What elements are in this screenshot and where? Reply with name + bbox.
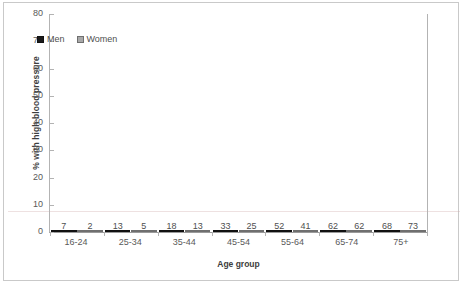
bar-group: 135 bbox=[104, 14, 158, 232]
bar-value-label: 62 bbox=[354, 221, 364, 231]
x-tick-mark bbox=[158, 232, 159, 236]
bar-value-label: 62 bbox=[328, 221, 338, 231]
y-tick-label: 0 bbox=[38, 226, 43, 236]
y-tick-label: 50 bbox=[33, 90, 43, 100]
x-tick-mark bbox=[265, 232, 266, 236]
bar-value-label: 33 bbox=[220, 221, 230, 231]
bar-group: 6262 bbox=[319, 14, 373, 232]
bar-group: 5241 bbox=[265, 14, 319, 232]
bar-group: 3325 bbox=[212, 14, 266, 232]
x-category-label: 55-64 bbox=[266, 237, 320, 247]
x-category-label: 45-54 bbox=[211, 237, 265, 247]
x-category-label: 75+ bbox=[374, 237, 428, 247]
bar-value-label: 13 bbox=[193, 221, 203, 231]
y-tick-label: 30 bbox=[33, 144, 43, 154]
legend-entry-men[interactable]: Men bbox=[37, 34, 65, 44]
bar-value-label: 2 bbox=[87, 221, 92, 231]
legend-entry-women[interactable]: Women bbox=[77, 34, 118, 44]
bar-value-label: 25 bbox=[247, 221, 257, 231]
bar-value-label: 18 bbox=[167, 221, 177, 231]
x-category-label: 65-74 bbox=[320, 237, 374, 247]
x-tick-mark bbox=[319, 232, 320, 236]
x-tick-mark bbox=[50, 232, 51, 236]
x-category-label: 35-44 bbox=[157, 237, 211, 247]
x-tick-mark bbox=[373, 232, 374, 236]
x-tick-mark bbox=[104, 232, 105, 236]
bar-group: 6873 bbox=[373, 14, 427, 232]
x-tick-mark bbox=[212, 232, 213, 236]
y-tick-label: 40 bbox=[33, 117, 43, 127]
x-axis-title: Age group bbox=[49, 259, 428, 269]
y-tick-label: 20 bbox=[33, 172, 43, 182]
legend-label-men: Men bbox=[47, 34, 65, 44]
bar-value-label: 13 bbox=[113, 221, 123, 231]
x-category-label: 25-34 bbox=[103, 237, 157, 247]
bar-value-label: 5 bbox=[141, 221, 146, 231]
bar-value-label: 52 bbox=[274, 221, 284, 231]
y-tick-label: 80 bbox=[33, 8, 43, 18]
y-tick-label: 60 bbox=[33, 63, 43, 73]
bar-group: 1813 bbox=[158, 14, 212, 232]
chart-figure: % with high blood pressure 0102030405060… bbox=[3, 2, 459, 281]
chart-legend: MenWomen bbox=[37, 34, 117, 44]
x-category-label: 16-24 bbox=[49, 237, 103, 247]
bar-group: 72 bbox=[50, 14, 104, 232]
y-tick-label: 10 bbox=[33, 199, 43, 209]
bar-value-label: 73 bbox=[408, 221, 418, 231]
legend-label-women: Women bbox=[87, 34, 118, 44]
plot-area: 01020304050607080 7213518133325524162626… bbox=[49, 14, 428, 233]
bar-value-label: 68 bbox=[382, 221, 392, 231]
men-color-swatch-icon bbox=[37, 36, 44, 43]
x-tick-mark bbox=[427, 232, 428, 236]
bar-value-label: 41 bbox=[300, 221, 310, 231]
bar-value-label: 7 bbox=[61, 221, 66, 231]
women-color-swatch-icon bbox=[77, 36, 84, 43]
